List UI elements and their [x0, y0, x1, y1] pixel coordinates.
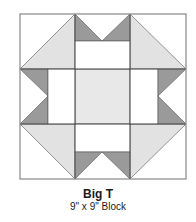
top-white-bar [75, 41, 130, 69]
block-title: Big T [0, 187, 196, 201]
left-white-bar [48, 69, 75, 124]
right-white-bar [130, 69, 158, 124]
quilt-block-diagram [0, 0, 196, 185]
bottom-white-bar [75, 124, 130, 152]
block-size-label: 9" x 9" Block [0, 201, 196, 212]
center-square [75, 69, 130, 124]
